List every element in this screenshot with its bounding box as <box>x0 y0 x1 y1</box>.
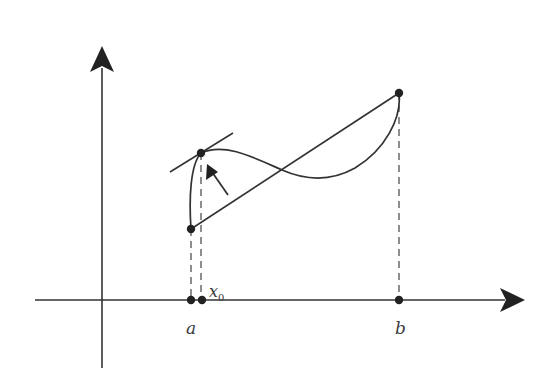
dashed-projections <box>191 93 399 300</box>
diagram-canvas: a b x0 <box>0 0 550 385</box>
point-x0-axis <box>198 296 206 304</box>
point-a-fa <box>187 225 195 233</box>
point-b-fb <box>395 89 403 97</box>
label-b: b <box>395 318 406 338</box>
label-x0-base: x <box>209 282 218 301</box>
label-x0: x0 <box>209 282 224 303</box>
pointer-arrow-icon <box>206 164 228 195</box>
y-axis <box>90 46 114 368</box>
point-x0-tangent <box>197 149 205 157</box>
point-b-axis <box>395 296 403 304</box>
point-a-axis <box>187 296 195 304</box>
label-x0-subscript: 0 <box>218 292 224 303</box>
label-a: a <box>186 318 196 338</box>
x-axis <box>35 288 525 312</box>
secant-line <box>191 93 399 229</box>
